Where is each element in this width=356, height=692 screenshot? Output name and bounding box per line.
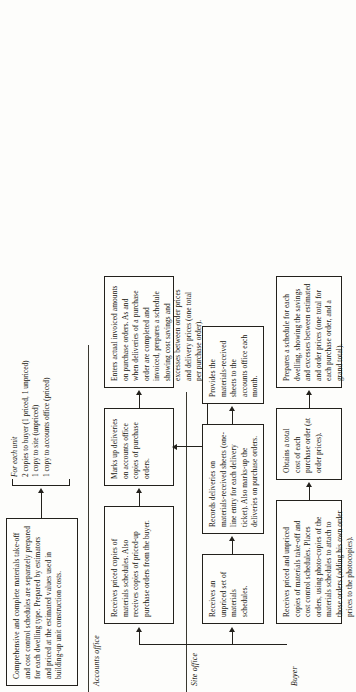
site-step-1: Receives an unpriced set of materials sc…	[202, 554, 264, 624]
connector-accounts-1-2	[139, 492, 140, 506]
connector-buyer-2-3	[309, 394, 310, 408]
connector-buyer-1-2	[309, 486, 310, 500]
accounts-step-2-text: Marks up deliveries on accounts office c…	[110, 415, 152, 479]
distribution-note-line-2: 1 copy to site (unpriced)	[31, 360, 42, 477]
distribution-note-line-3: 1 copy to accounts office (priced)	[42, 360, 53, 477]
lane-label-accounts-office: Accounts office	[92, 635, 101, 686]
lane-label-buyer: Buyer	[290, 666, 299, 686]
site-step-3-text: Provides the materials-received sheets t…	[208, 333, 261, 397]
buyer-step-1-text: Receives priced and unpriced copies of m…	[282, 507, 356, 617]
arrow-site-1-2	[229, 536, 235, 541]
lane-label-site-office: Site office	[190, 653, 199, 686]
connector-site-2-3	[232, 410, 233, 424]
connector-accounts-2-3	[139, 394, 140, 408]
distribution-note-heading: For each unit	[10, 360, 21, 477]
lane-divider-site	[186, 392, 187, 692]
intro-box-text: Comprehensive and complete materials tak…	[12, 525, 65, 679]
arrow-accounts-2-3	[136, 390, 142, 395]
site-step-2: Records deliveries on materials-received…	[202, 424, 264, 534]
arrow-buyer-1-2	[306, 482, 312, 487]
arrow-buyer-2-3	[306, 390, 312, 395]
buyer-step-1: Receives priced and unpriced copies of m…	[276, 500, 342, 624]
arrow-into-accounts-step-1	[136, 627, 142, 632]
distribution-note: For each unit 2 copies to buyer (1 price…	[10, 360, 52, 477]
buyer-step-3: Prepares a schedule for each dwelling, s…	[276, 276, 342, 388]
arrow-into-site-step-1	[229, 627, 235, 632]
accounts-step-3: Enters actual invoiced amounts on purcha…	[104, 276, 174, 388]
site-step-3: Provides the materials-received sheets t…	[202, 326, 264, 404]
site-step-1-text: Receives an unpriced set of materials sc…	[208, 561, 250, 617]
buyer-step-2: Obtains a total cost of each purchase or…	[276, 408, 342, 480]
accounts-step-3-text: Enters actual invoiced amounts on purcha…	[110, 283, 205, 381]
buyer-step-3-text: Prepares a schedule for each dwelling, s…	[282, 283, 345, 381]
connector-buyer-to-site-h	[232, 631, 233, 645]
distribution-note-line-1: 2 copies to buyer (1 priced, 1 unpriced)	[21, 360, 32, 477]
connector-buyer-to-site-v	[232, 644, 287, 645]
intro-box: Comprehensive and complete materials tak…	[6, 518, 78, 686]
lane-divider-accounts	[88, 345, 89, 692]
arrow-site-2-3	[229, 406, 235, 411]
arrow-intro-to-note	[38, 488, 44, 493]
accounts-step-1-text: Receives priced copies of materials sche…	[110, 513, 152, 617]
site-step-2-text: Records deliveries on materials-received…	[208, 431, 261, 527]
arrow-accounts-1-2	[136, 488, 142, 493]
distribution-bracket	[12, 479, 70, 486]
arrow-into-accounts-step-2	[172, 444, 177, 450]
connector-site-1-2	[232, 540, 233, 554]
buyer-step-2-text: Obtains a total cost of each purchase or…	[282, 415, 324, 473]
connector-buyer-to-accounts-h	[139, 631, 140, 645]
accounts-step-2: Marks up deliveries on accounts office c…	[104, 408, 174, 486]
accounts-step-1: Receives priced copies of materials sche…	[104, 506, 174, 624]
connector-intro-to-note	[41, 492, 42, 518]
